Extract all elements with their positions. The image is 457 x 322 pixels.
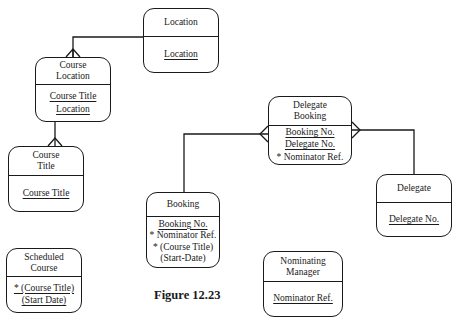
entity-title-line: Course [60,60,87,71]
entity-title: Course Title [9,147,83,176]
entity-title: Location [144,9,218,37]
attribute-foreign: * Nominator Ref. [277,151,344,164]
attribute-foreign: * (Course Title) [153,242,213,254]
entity-title-line: Scheduled [24,252,64,263]
entity-title-text: Delegate [397,183,431,194]
entity-attributes: Nominator Ref. [264,281,342,316]
entity-attributes: Course Title [9,175,83,211]
entity-title: Course Location [36,58,110,85]
entity-course-title: Course Title Course Title [8,146,84,212]
attribute: (Start-Date) [160,253,205,265]
entity-title-line: Course [33,150,60,161]
entity-title-line: Course [31,263,58,274]
entity-title-line: Booking [294,111,327,122]
attribute-key: (Start Date) [22,294,67,307]
entity-scheduled-course: Scheduled Course * (Course Title) (Start… [6,248,82,313]
line-delegate-delegate-booking [352,130,414,174]
entity-attributes: Booking No. * Nominator Ref. * (Course T… [147,216,219,267]
entity-title-line: Manager [286,267,320,278]
line-location-course-location [73,37,143,57]
entity-title: Booking [147,193,219,217]
line-booking-delegate-booking [184,134,268,192]
attribute-key: Course Title [23,187,70,200]
attribute-key: Booking No. [158,219,207,231]
attribute-foreign: * Nominator Ref. [150,230,217,242]
attribute-key: Course Title [50,90,97,103]
crowfoot-course-location [66,49,80,57]
entity-title: Nominating Manager [264,252,342,282]
entity-attributes: Delegate No. [377,202,451,236]
entity-title-line: Title [37,161,55,172]
entity-title-line: Delegate [293,100,327,111]
attribute-key: Delegate No. [285,138,335,151]
entity-attributes: Location [144,36,218,72]
attribute-key: Nominator Ref. [273,292,333,305]
entity-title-text: Location [164,17,198,28]
entity-title: Delegate Booking [269,97,351,126]
attribute-key: * (Course Title) [14,282,74,295]
entity-location: Location Location [143,8,219,73]
entity-title-line: Location [56,71,90,82]
attribute-key: Location [164,48,198,61]
entity-title: Delegate [377,175,451,203]
entity-delegate: Delegate Delegate No. [376,174,452,237]
entity-attributes: Booking No. Delegate No. * Nominator Ref… [269,125,351,164]
entity-title-text: Booking [167,199,200,210]
entity-delegate-booking: Delegate Booking Booking No. Delegate No… [268,96,352,165]
entity-booking: Booking Booking No. * Nominator Ref. * (… [146,192,220,268]
entity-title-line: Nominating [280,256,325,267]
entity-course-location: Course Location Course Title Location [35,57,111,122]
entity-title: Scheduled Course [7,249,81,277]
entity-nominating-manager: Nominating Manager Nominator Ref. [263,251,343,317]
figure-caption: Figure 12.23 [154,288,220,303]
entity-attributes: Course Title Location [36,84,110,121]
attribute-key: Delegate No. [389,213,439,226]
attribute-key: Booking No. [285,126,334,139]
attribute-key: Location [56,103,90,116]
entity-attributes: * (Course Title) (Start Date) [7,276,81,312]
